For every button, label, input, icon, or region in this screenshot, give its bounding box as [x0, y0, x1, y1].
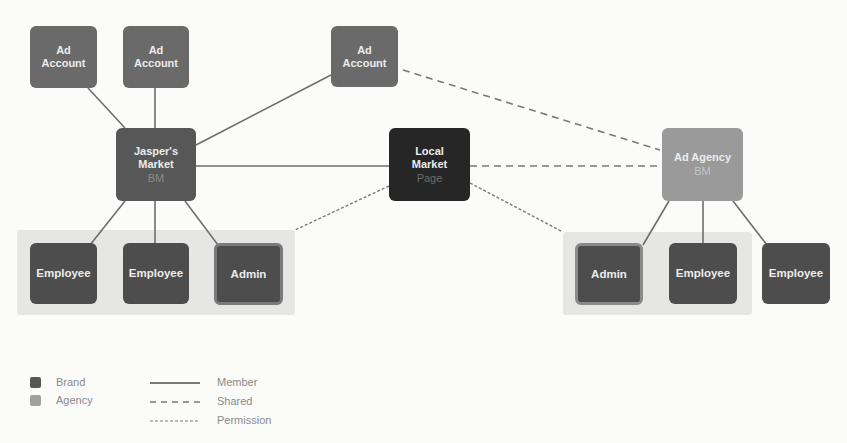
- node-title: Ad: [357, 44, 372, 57]
- node-label: Employee: [769, 267, 823, 280]
- local-market-page-node[interactable]: Local Market Page: [389, 128, 470, 201]
- edge-permission-localmarket-leftgroup: [295, 186, 389, 230]
- ad-agency-bm-node[interactable]: Ad Agency BM: [662, 128, 743, 201]
- edge-permission-localmarket-rightgroup: [470, 183, 563, 232]
- ad-account-node-1[interactable]: Ad Account: [30, 26, 97, 88]
- legend-shared-label: Shared: [217, 395, 252, 407]
- node-type: BM: [148, 171, 165, 185]
- edge-member-adaccount3-jasper: [196, 75, 331, 145]
- right-employee-node-2[interactable]: Employee: [762, 243, 830, 304]
- right-employee-node-1[interactable]: Employee: [669, 243, 737, 304]
- node-label: Employee: [676, 267, 730, 280]
- node-subtitle: Market: [412, 158, 447, 171]
- left-employee-node-1[interactable]: Employee: [30, 243, 97, 304]
- node-title: Ad Agency: [674, 151, 731, 164]
- node-type: BM: [694, 164, 711, 178]
- node-title: Ad: [149, 44, 164, 57]
- node-subtitle: Account: [134, 57, 178, 70]
- node-subtitle: Account: [42, 57, 86, 70]
- agency-swatch-icon: [30, 395, 41, 406]
- node-title: Ad: [56, 44, 71, 57]
- node-label: Admin: [591, 268, 627, 281]
- right-admin-node[interactable]: Admin: [575, 243, 643, 305]
- node-subtitle: Account: [343, 57, 387, 70]
- ad-account-node-2[interactable]: Ad Account: [123, 26, 189, 88]
- node-title: Jasper's: [134, 145, 178, 158]
- node-type: Page: [417, 171, 443, 185]
- edge-member-adaccount1-jasper: [88, 88, 125, 128]
- node-label: Employee: [36, 267, 90, 280]
- left-admin-node[interactable]: Admin: [214, 243, 283, 305]
- jaspers-market-bm-node[interactable]: Jasper's Market BM: [116, 128, 196, 201]
- node-subtitle: Market: [138, 158, 173, 171]
- brand-swatch-icon: [30, 377, 41, 388]
- node-label: Employee: [129, 267, 183, 280]
- edge-member-jasper-admin: [185, 201, 218, 245]
- node-label: Admin: [231, 268, 267, 281]
- edge-member-agency-admin: [643, 201, 669, 245]
- edge-member-jasper-employee1: [90, 201, 125, 245]
- legend-member-label: Member: [217, 376, 257, 388]
- ad-account-node-3[interactable]: Ad Account: [331, 26, 398, 87]
- left-employee-node-2[interactable]: Employee: [123, 243, 189, 304]
- edge-member-agency-employee2: [733, 201, 767, 245]
- node-title: Local: [415, 145, 444, 158]
- legend-agency-label: Agency: [56, 394, 93, 406]
- legend-permission-label: Permission: [217, 414, 271, 426]
- permissions-diagram: Ad Account Ad Account Ad Account Jasper'…: [0, 0, 847, 443]
- legend-brand-label: Brand: [56, 376, 85, 388]
